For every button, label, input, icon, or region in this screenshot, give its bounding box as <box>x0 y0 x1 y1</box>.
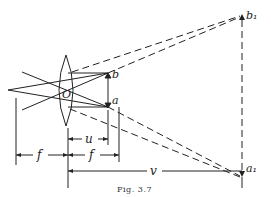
object-bottom-label: a <box>112 94 119 107</box>
v-label: v <box>150 164 157 178</box>
dimension-lines <box>16 98 242 188</box>
figure-caption: Fig. 3.7 <box>117 185 152 194</box>
center-label: O <box>62 88 71 101</box>
object-top-label: b <box>112 68 119 81</box>
object-arrow <box>105 73 111 108</box>
u-label: u <box>85 132 93 146</box>
lens-ray-diagram: O b a b₁ a₁ u f f v Fig. 3.7 <box>0 0 271 197</box>
image-bottom-label: a₁ <box>246 162 257 175</box>
dashed-extension-rays <box>70 16 242 177</box>
principal-rays <box>8 72 108 110</box>
f-left-label: f <box>36 148 44 162</box>
f-right-label: f <box>88 148 96 162</box>
image-top-label: b₁ <box>246 9 257 22</box>
